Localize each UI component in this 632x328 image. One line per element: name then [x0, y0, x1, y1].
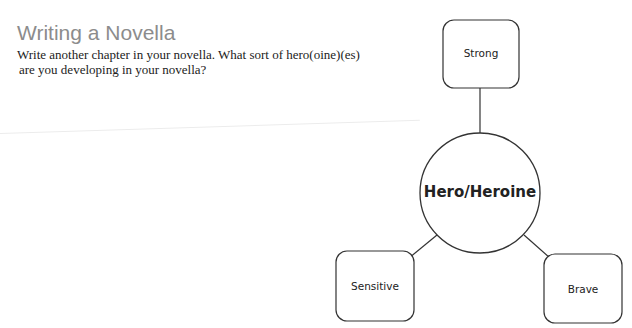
- node-label-sensitive: Sensitive: [336, 280, 414, 292]
- node-label-strong: Strong: [443, 47, 519, 59]
- node-label-brave: Brave: [544, 283, 622, 295]
- connector-sensitive: [409, 235, 437, 258]
- web-diagram: [0, 0, 632, 328]
- connector-brave: [524, 235, 550, 258]
- center-node-label: Hero/Heroine: [420, 183, 540, 201]
